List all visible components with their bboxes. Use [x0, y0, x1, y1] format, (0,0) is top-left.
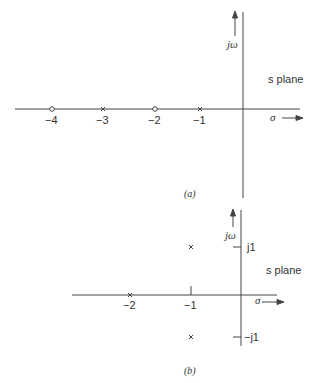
a-jw-label: jω [227, 38, 238, 50]
b-pole-marker-icon [189, 245, 193, 249]
a-caption: (a) [184, 188, 196, 199]
a-zero-marker-icon [153, 107, 158, 112]
pole-zero-diagram [0, 0, 312, 383]
b-jw-arrowhead-icon [231, 209, 236, 216]
a-sigma-label: σ [270, 111, 275, 123]
a-tick-label: −3 [96, 114, 109, 126]
a-zero-marker-icon [50, 107, 55, 112]
b-sigma-arrowhead-icon [277, 300, 284, 305]
b-jw-label: jω [225, 229, 236, 241]
b-neg-j1-label: −j1 [244, 331, 259, 343]
b-plane-label: s plane [266, 264, 301, 276]
b-tick-label: −2 [123, 299, 136, 311]
a-tick-label: −4 [45, 114, 58, 126]
a-sigma-arrowhead-icon [296, 116, 303, 121]
a-plane-label: s plane [268, 73, 303, 85]
b-caption: (b) [184, 365, 196, 376]
a-tick-label: −2 [148, 114, 161, 126]
b-sigma-label: σ [255, 294, 260, 306]
a-jw-arrowhead-icon [233, 11, 238, 18]
b-j1-label: j1 [247, 241, 256, 253]
b-tick-label: −1 [184, 299, 197, 311]
b-pole-marker-icon [189, 335, 193, 339]
a-tick-label: −1 [193, 114, 206, 126]
